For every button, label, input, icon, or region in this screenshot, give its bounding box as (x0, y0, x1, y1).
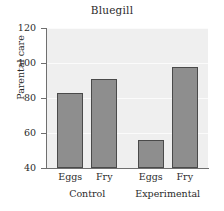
chart-title: Bluegill (0, 4, 224, 16)
y-axis-tick-label: 120 (0, 22, 36, 33)
bar (57, 93, 83, 168)
bar (138, 140, 164, 168)
x-axis-line (46, 168, 209, 169)
x-axis-group-label: Experimental (128, 188, 209, 199)
y-axis-tick-label: 40 (0, 162, 36, 173)
bar (91, 79, 117, 168)
bar-chart-figure: Bluegill Parental care 406080100120EggsF… (0, 0, 224, 211)
bar (172, 67, 198, 169)
y-axis-tick-label: 60 (0, 127, 36, 138)
x-axis-tick-label: Fry (81, 171, 127, 182)
y-axis-tick (41, 63, 47, 64)
gridline (47, 28, 208, 29)
x-axis-tick-label: Fry (162, 171, 208, 182)
y-axis-tick-label: 80 (0, 92, 36, 103)
y-axis-tick-label: 100 (0, 57, 36, 68)
gridline (47, 63, 208, 64)
x-axis-group-label: Control (47, 188, 128, 199)
y-axis-tick (41, 168, 47, 169)
y-axis-tick (41, 133, 47, 134)
y-axis-tick (41, 98, 47, 99)
y-axis-tick (41, 28, 47, 29)
